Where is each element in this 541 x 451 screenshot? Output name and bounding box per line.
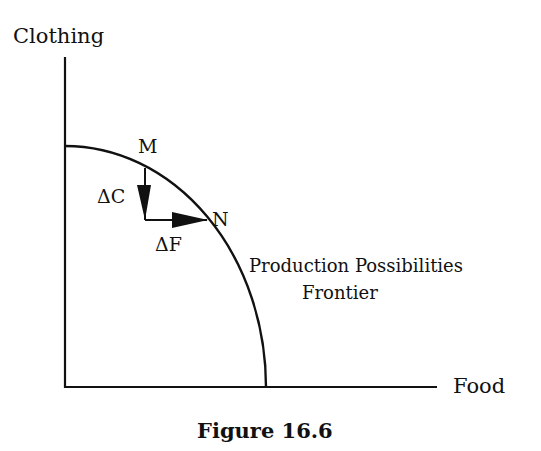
delta-c-label: ΔC [97,185,125,207]
x-axis-label: Food [453,374,505,398]
delta-f-label: ΔF [155,233,182,255]
delta-f-arrowhead [172,212,208,228]
y-axis-label: Clothing [13,24,104,48]
curve-label-line2: Frontier [302,282,378,303]
curve-label-line1: Production Possibilities [249,255,463,276]
ppf-curve [65,146,266,387]
point-m-label: M [138,135,157,157]
figure-caption: Figure 16.6 [197,418,333,443]
point-n-label: N [212,208,229,230]
delta-c-arrowhead [137,185,151,220]
